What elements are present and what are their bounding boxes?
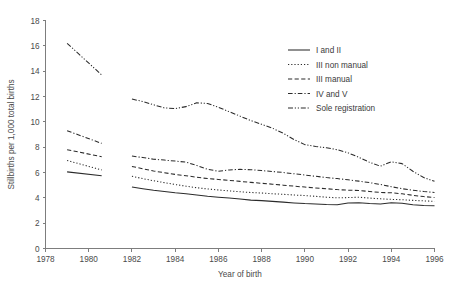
stillbirths-line-chart: 024681012141618 Stillbirths per 1,000 to… [0, 0, 449, 290]
y-axis-label: Stillbirths per 1,000 total births [7, 79, 16, 189]
legend-label-4: Sole registration [316, 104, 376, 113]
legend-label-3: IV and V [316, 90, 348, 99]
legend-label-1: III non manual [316, 61, 368, 70]
series-line-i-and-ii [132, 187, 435, 206]
series-line-iii-non-manual [67, 160, 102, 170]
y-tick-label: 12 [30, 93, 40, 102]
y-tick-label: 6 [35, 169, 40, 178]
x-tick-label: 1980 [80, 255, 99, 264]
x-tick-label: 1984 [166, 255, 185, 264]
y-axis-group: 024681012141618 Stillbirths per 1,000 to… [7, 17, 46, 254]
series-line-iii-non-manual [132, 176, 435, 201]
x-tick-label: 1986 [209, 255, 228, 264]
x-tick-label: 1996 [425, 255, 444, 264]
x-tick-group: 1978198019821984198619881990199219941996 [36, 249, 444, 264]
x-tick-label: 1992 [339, 255, 358, 264]
y-tick-label: 0 [35, 245, 40, 254]
x-tick-label: 1988 [253, 255, 272, 264]
series-line-iv-and-v [132, 156, 435, 192]
x-tick-label: 1994 [382, 255, 401, 264]
series-line-iv-and-v [67, 131, 102, 144]
x-tick-label: 1982 [123, 255, 142, 264]
legend-label-2: III manual [316, 75, 352, 84]
y-tick-label: 16 [30, 42, 40, 51]
y-tick-label: 8 [35, 143, 40, 152]
y-tick-label: 18 [30, 17, 40, 26]
legend-label-0: I and II [316, 46, 341, 55]
x-tick-label: 1978 [36, 255, 55, 264]
y-tick-label: 2 [35, 219, 40, 228]
series-line-sole-registration [67, 43, 102, 75]
x-tick-label: 1990 [296, 255, 315, 264]
series-line-sole-registration [132, 99, 435, 181]
series-line-iii-manual [67, 150, 102, 157]
x-axis-label: Year of birth [218, 270, 262, 279]
y-tick-label: 14 [30, 67, 40, 76]
chart-canvas: 024681012141618 Stillbirths per 1,000 to… [0, 0, 449, 290]
x-axis-group: 1978198019821984198619881990199219941996… [36, 249, 444, 279]
y-tick-label: 10 [30, 118, 40, 127]
y-tick-label: 4 [35, 194, 40, 203]
series-group [67, 43, 434, 205]
series-line-i-and-ii [67, 172, 102, 176]
y-tick-group: 024681012141618 [30, 17, 45, 254]
chart-legend: I and IIIII non manualIII manualIV and V… [288, 46, 376, 113]
